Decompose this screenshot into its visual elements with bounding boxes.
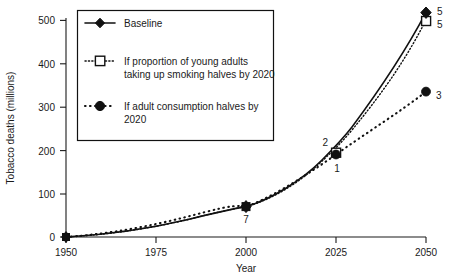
legend-label-baseline: Baseline bbox=[124, 18, 163, 29]
x-tick-label-2025: 2025 bbox=[325, 247, 348, 258]
legend-label-adult-consumption-line1: If adult consumption halves by bbox=[124, 101, 259, 112]
tobacco-deaths-line-chart: 500 400 300 200 100 0 1950 1975 2000 202… bbox=[0, 0, 453, 280]
annotation-baseline-2050: 5 bbox=[437, 6, 443, 17]
y-tick-label-300: 300 bbox=[38, 102, 55, 113]
annotation-adult-consumption-2025: 1 bbox=[334, 163, 340, 174]
x-tick-label-1950: 1950 bbox=[55, 247, 78, 258]
y-tick-label-200: 200 bbox=[38, 146, 55, 157]
marker-2025-circle bbox=[332, 150, 341, 159]
legend-marker-open-square bbox=[95, 56, 104, 65]
x-axis-title: Year bbox=[236, 263, 257, 274]
legend-label-adult-consumption-line2: 2020 bbox=[124, 114, 147, 125]
y-tick-label-400: 400 bbox=[38, 59, 55, 70]
marker-1950-circle bbox=[63, 234, 70, 241]
y-tick-label-500: 500 bbox=[38, 15, 55, 26]
x-tick-label-2050: 2050 bbox=[415, 247, 438, 258]
annotation-young-adults-2050: 5 bbox=[437, 19, 443, 30]
legend-label-young-adults-line2: taking up smoking halves by 2020 bbox=[124, 69, 275, 80]
y-axis-title: Tobacco deaths (millions) bbox=[5, 72, 16, 185]
annotation-baseline-2000: 7 bbox=[243, 214, 249, 225]
marker-2050-circle bbox=[422, 87, 431, 96]
y-tick-label-0: 0 bbox=[49, 232, 55, 243]
legend-label-young-adults-line1: If proportion of young adults bbox=[124, 56, 248, 67]
legend-marker-filled-circle bbox=[95, 101, 104, 110]
legend: Baseline If proportion of young adults t… bbox=[78, 11, 276, 141]
chart-container: 500 400 300 200 100 0 1950 1975 2000 202… bbox=[0, 0, 453, 280]
annotation-adult-consumption-2050: 3 bbox=[436, 90, 442, 101]
x-tick-label-2000: 2000 bbox=[235, 247, 258, 258]
y-tick-label-100: 100 bbox=[38, 189, 55, 200]
x-tick-label-1975: 1975 bbox=[145, 247, 168, 258]
annotation-young-adults-2025: 2 bbox=[322, 137, 328, 148]
